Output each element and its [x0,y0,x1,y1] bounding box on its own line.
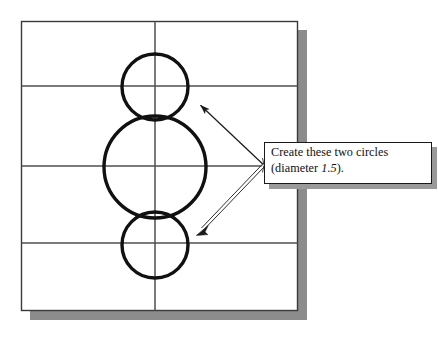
callout-line-1: Create these two circles [271,145,429,161]
callout-line-2: (diameter 1.5). [271,161,429,177]
drawing-canvas: Create these two circles (diameter 1.5). [0,0,438,337]
callout-diameter-value: 1.5 [321,161,336,175]
frame-shadow-bottom [30,311,307,320]
callout-line-2-prefix: (diameter [271,161,321,175]
callout-line-2-suffix: ). [337,161,344,175]
callout-note[interactable]: Create these two circles (diameter 1.5). [264,142,432,184]
